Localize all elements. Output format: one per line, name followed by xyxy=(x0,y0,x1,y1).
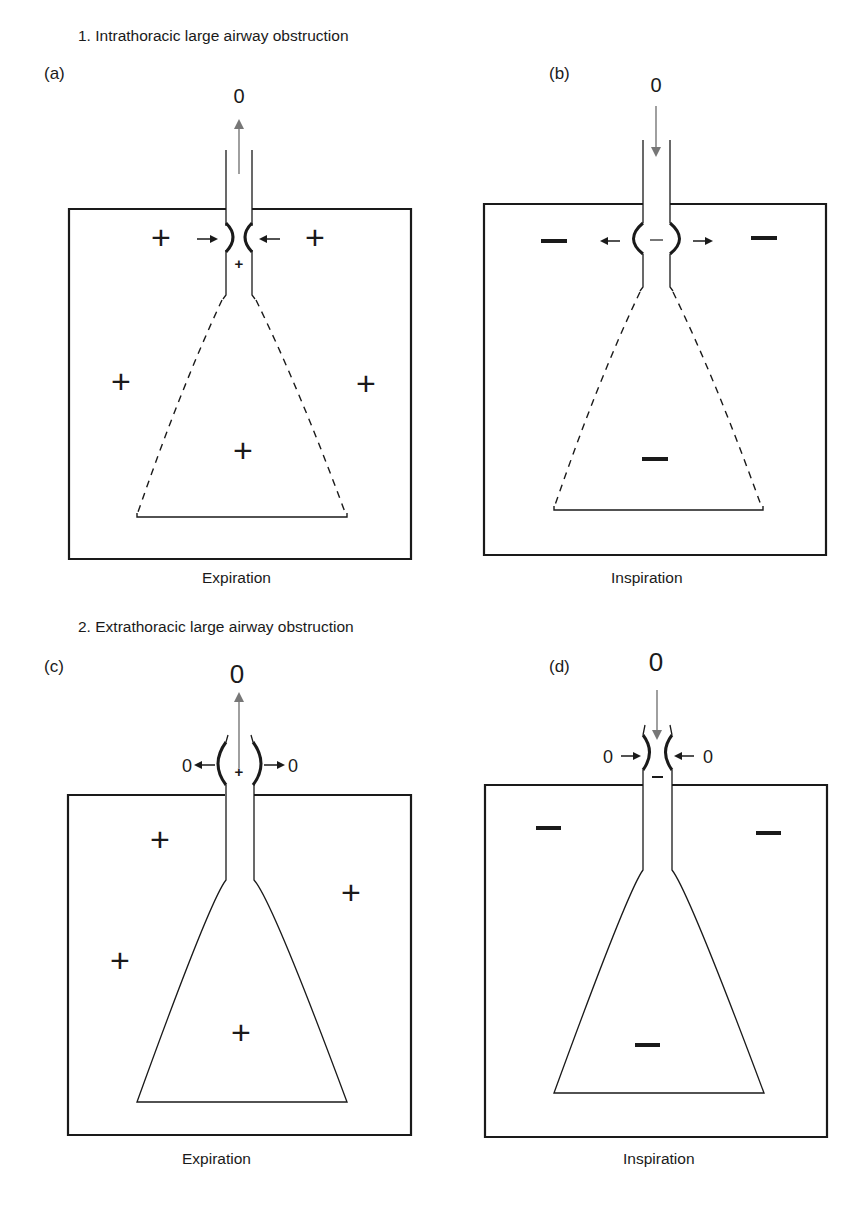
constriction-left-a xyxy=(226,223,233,252)
pleural-sign-b-2 xyxy=(751,236,777,240)
pleural-sign-a-3: + xyxy=(111,362,131,400)
side-label-right-c: 0 xyxy=(288,756,298,776)
thorax-box-b xyxy=(484,204,826,555)
alveolar-sign-b xyxy=(642,457,668,461)
flow-label-a: 0 xyxy=(233,85,244,107)
intraluminal-sign-c: + xyxy=(235,763,244,780)
constriction-left-d xyxy=(643,735,650,770)
pleural-sign-b-1 xyxy=(541,239,567,243)
pleural-sign-a-2: + xyxy=(305,218,325,256)
alveolar-sign-c: + xyxy=(231,1013,251,1051)
lower-airway-b xyxy=(554,292,762,508)
lower-airway-base-a xyxy=(137,513,347,517)
constriction-right-d xyxy=(666,735,673,770)
flow-label-c: 0 xyxy=(230,659,244,689)
pleural-sign-c-3: + xyxy=(110,941,130,979)
bulge-left-b xyxy=(634,223,644,254)
intraluminal-sign-b xyxy=(650,239,663,241)
alveolar-sign-d xyxy=(635,1043,660,1047)
lower-airway-base-b xyxy=(554,506,763,510)
flow-label-d: 0 xyxy=(649,647,663,677)
side-label-left-c: 0 xyxy=(182,756,192,776)
pleural-sign-a-4: + xyxy=(356,364,376,402)
bulge-right-b xyxy=(670,223,680,254)
bulge-right-c xyxy=(253,742,261,785)
trachea-left-wall-b xyxy=(640,140,643,291)
alveolar-sign-a: + xyxy=(233,431,253,469)
pleural-sign-d-1 xyxy=(536,826,561,830)
pleural-sign-a-1: + xyxy=(151,218,171,256)
panel-c: 0 0 0 + + + + + xyxy=(68,659,411,1135)
flow-label-b: 0 xyxy=(650,74,661,96)
airway-obstruction-diagram: 0 + + + + + + 0 0 xyxy=(0,0,862,1216)
trachea-right-wall-b xyxy=(670,140,673,291)
intraluminal-sign-a: + xyxy=(235,255,244,272)
thorax-box-d xyxy=(485,785,827,1137)
side-label-right-d: 0 xyxy=(703,747,713,767)
lower-airway-a xyxy=(137,300,346,515)
pleural-sign-d-2 xyxy=(756,831,781,835)
pleural-sign-c-1: + xyxy=(150,820,170,858)
pleural-sign-c-2: + xyxy=(341,873,361,911)
constriction-right-a xyxy=(245,223,252,252)
bulge-left-c xyxy=(218,742,226,785)
panel-d: 0 0 0 xyxy=(485,647,827,1137)
intraluminal-sign-d xyxy=(652,776,663,778)
side-label-left-d: 0 xyxy=(603,747,613,767)
panel-b: 0 xyxy=(484,74,826,555)
panel-a: 0 + + + + + + xyxy=(69,85,411,559)
